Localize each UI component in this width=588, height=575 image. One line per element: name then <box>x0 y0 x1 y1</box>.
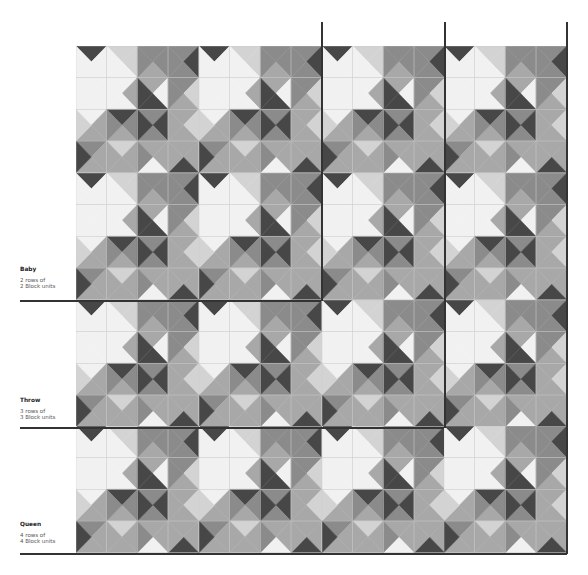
baby-label: Baby 2 rows of 2 Block units <box>20 266 55 290</box>
quilt-block <box>199 426 322 553</box>
quilt-block <box>322 173 445 300</box>
throw-desc-line2: 3 Block units <box>20 414 55 421</box>
quilt-block <box>76 300 199 427</box>
baby-boundary-vertical <box>321 22 323 301</box>
quilt-block <box>444 173 567 300</box>
queen-title: Queen <box>20 521 55 528</box>
baby-boundary-horizontal <box>20 300 321 302</box>
queen-desc-line2: 4 Block units <box>20 538 55 545</box>
queen-label: Queen 4 rows of 4 Block units <box>20 521 55 545</box>
quilt-block <box>199 46 322 173</box>
queen-boundary-vertical <box>566 22 568 554</box>
throw-boundary-horizontal <box>20 427 444 429</box>
quilt-block <box>444 426 567 553</box>
quilt-block <box>444 46 567 173</box>
quilt-block <box>76 426 199 553</box>
baby-title: Baby <box>20 266 55 273</box>
baby-desc-line2: 2 Block units <box>20 283 55 290</box>
queen-desc-line1: 4 rows of <box>20 532 55 539</box>
queen-boundary-horizontal <box>20 553 567 555</box>
quilt-block <box>322 300 445 427</box>
quilt-block <box>322 46 445 173</box>
quilt-block <box>76 46 199 173</box>
quilt-block <box>199 173 322 300</box>
throw-desc-line1: 3 rows of <box>20 408 55 415</box>
throw-title: Throw <box>20 397 55 404</box>
quilt-block <box>76 173 199 300</box>
throw-boundary-vertical <box>444 22 446 428</box>
quilt-block <box>322 426 445 553</box>
baby-desc-line1: 2 rows of <box>20 277 55 284</box>
quilt-block <box>444 300 567 427</box>
throw-label: Throw 3 rows of 3 Block units <box>20 397 55 421</box>
quilt-block <box>199 300 322 427</box>
